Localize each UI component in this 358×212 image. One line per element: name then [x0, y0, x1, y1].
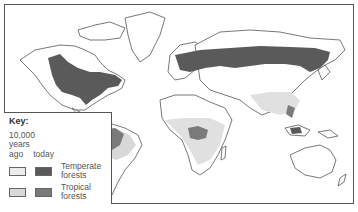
key-title: Key: — [9, 116, 106, 126]
greenland — [125, 12, 165, 62]
swatch-temperate-past — [9, 167, 26, 176]
new-zealand — [338, 174, 346, 186]
swatch-temperate-today — [35, 167, 52, 176]
key-col-past: ago — [9, 149, 23, 159]
swatch-tropical-today — [35, 188, 52, 197]
key-row-temperate: Temperate forests — [9, 162, 106, 180]
key-col-today: today — [33, 149, 54, 159]
map-key: Key: 10,000 years ago today Temperate fo… — [4, 112, 112, 204]
arctic-islands — [78, 22, 125, 40]
key-row-tropical: Tropical forests — [9, 183, 106, 201]
key-period: 10,000 years — [9, 131, 106, 149]
madagascar — [221, 146, 226, 160]
swatch-tropical-past — [9, 188, 26, 197]
australia — [290, 145, 336, 178]
indonesia-tropical-today — [290, 127, 302, 134]
new-guinea — [318, 130, 338, 138]
key-columns: ago today — [9, 149, 106, 159]
